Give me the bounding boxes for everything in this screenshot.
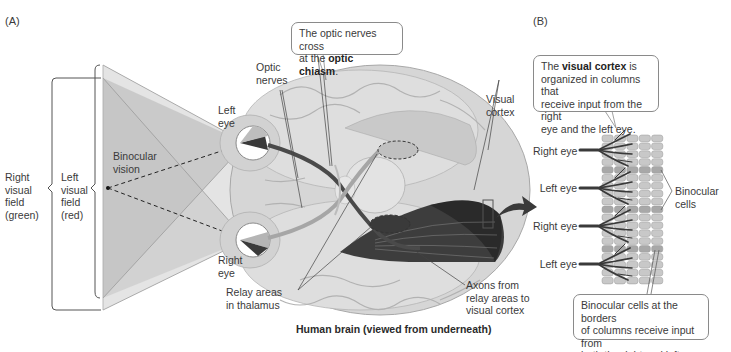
- label-eye-row-3: Right eye: [533, 220, 577, 233]
- label-left-visual-field: Left visual field (red): [61, 171, 88, 221]
- panel-label-a: (A): [5, 15, 20, 27]
- label-right-eye: Right eye: [218, 254, 243, 279]
- callout-visual-cortex: The visual cortex is organized in column…: [533, 55, 659, 112]
- label-optic-nerves: Optic nerves: [256, 61, 288, 86]
- label-binocular-vision: Binocular vision: [113, 150, 157, 175]
- label-eye-row-1: Right eye: [533, 145, 577, 158]
- callout-optic-chiasm: The optic nerves cross at the optic chia…: [291, 22, 403, 55]
- label-right-visual-field: Right visual field (green): [5, 171, 39, 221]
- relay-area-upper: [378, 141, 418, 159]
- caption-brain: Human brain (viewed from underneath): [296, 323, 491, 335]
- relay-area-lower: [370, 215, 410, 233]
- label-axons: Axons from relay areas to visual cortex: [466, 279, 530, 317]
- label-binocular-cells: Binocular cells: [675, 185, 719, 210]
- label-relay-areas: Relay areas in thalamus: [226, 286, 282, 311]
- panel-label-b: (B): [533, 15, 548, 27]
- label-eye-row-4: Left eye: [533, 258, 577, 271]
- callout-binocular-cells: Binocular cells at the borders of column…: [573, 294, 709, 340]
- label-eye-row-2: Left eye: [533, 182, 577, 195]
- right-eye-shape: [236, 223, 270, 257]
- brain: [220, 65, 530, 315]
- label-visual-cortex: Visual cortex: [486, 93, 515, 118]
- left-eye-shape: [236, 126, 270, 160]
- label-left-eye: Left eye: [218, 104, 236, 129]
